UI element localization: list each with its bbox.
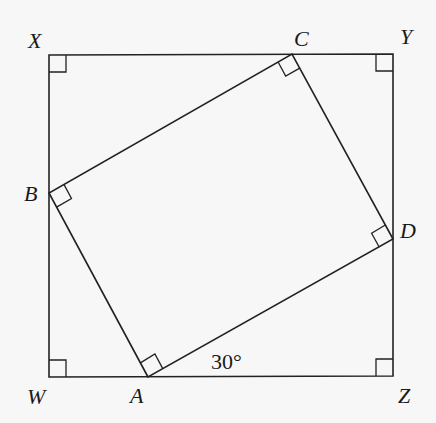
label-d: D <box>399 218 416 243</box>
outer-square-wxyz <box>49 54 393 377</box>
label-c: C <box>294 26 309 51</box>
right-angle-mark-x <box>49 55 66 72</box>
inner-rectangle-abcd <box>49 54 393 377</box>
label-w: W <box>27 384 47 409</box>
right-angle-mark-a <box>140 354 162 368</box>
label-x: X <box>27 28 43 53</box>
right-angle-mark-y <box>376 54 393 71</box>
angle-label-30: 30° <box>211 349 242 374</box>
right-angle-mark-c <box>278 62 300 76</box>
label-z: Z <box>398 383 411 408</box>
right-angle-mark-z <box>376 359 393 376</box>
label-y: Y <box>400 24 415 49</box>
label-b: B <box>24 181 37 206</box>
right-angle-mark-w <box>49 360 66 377</box>
label-a: A <box>128 383 144 408</box>
geometry-diagram: X Y Z W A B C D 30° <box>0 0 436 423</box>
